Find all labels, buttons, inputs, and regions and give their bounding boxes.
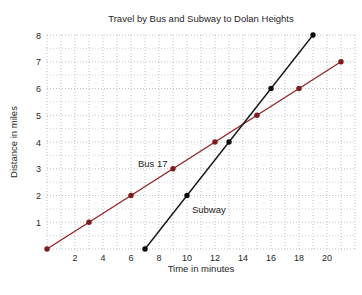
data-point-subway: [268, 86, 273, 91]
x-tick-label: 14: [238, 253, 248, 263]
x-tick-label: 10: [182, 253, 192, 263]
series-label-subway: Subway: [192, 204, 226, 215]
x-tick-label: 2: [72, 253, 77, 263]
data-point-subway: [310, 32, 315, 37]
data-point-bus-17: [296, 86, 301, 91]
data-point-bus-17: [44, 246, 49, 251]
data-point-bus-17: [212, 139, 217, 144]
x-tick-label: 8: [156, 253, 161, 263]
x-tick-label: 18: [294, 253, 304, 263]
data-point-bus-17: [170, 166, 175, 171]
data-point-bus-17: [338, 59, 343, 64]
x-tick-label: 12: [210, 253, 220, 263]
data-point-subway: [226, 139, 231, 144]
chart-canvas: 2468101214161820 12345678 Bus 17Subway T…: [0, 0, 362, 295]
y-tick-label: 1: [36, 218, 41, 228]
series-annotations: Bus 17Subway: [138, 158, 226, 215]
chart-title: Travel by Bus and Subway to Dolan Height…: [108, 13, 294, 24]
y-tick-label: 4: [36, 138, 41, 148]
x-axis-tick-labels: 2468101214161820: [72, 253, 332, 263]
x-axis-title: Time in minutes: [168, 263, 235, 274]
x-tick-label: 6: [128, 253, 133, 263]
y-tick-label: 2: [36, 191, 41, 201]
y-tick-label: 6: [36, 84, 41, 94]
travel-line-chart: 2468101214161820 12345678 Bus 17Subway T…: [0, 0, 362, 295]
x-tick-label: 4: [100, 253, 105, 263]
data-point-bus-17: [86, 220, 91, 225]
data-point-subway: [142, 246, 147, 251]
x-tick-label: 16: [266, 253, 276, 263]
y-tick-label: 3: [36, 164, 41, 174]
y-axis-tick-labels: 12345678: [36, 31, 41, 228]
series-label-bus-17: Bus 17: [138, 158, 168, 169]
grid: [47, 35, 355, 249]
y-tick-label: 5: [36, 111, 41, 121]
data-point-bus-17: [254, 113, 259, 118]
y-axis-title: Distance in miles: [8, 106, 19, 178]
y-tick-label: 8: [36, 31, 41, 41]
data-point-subway: [184, 193, 189, 198]
data-point-bus-17: [128, 193, 133, 198]
y-tick-label: 7: [36, 57, 41, 67]
x-tick-label: 20: [322, 253, 332, 263]
